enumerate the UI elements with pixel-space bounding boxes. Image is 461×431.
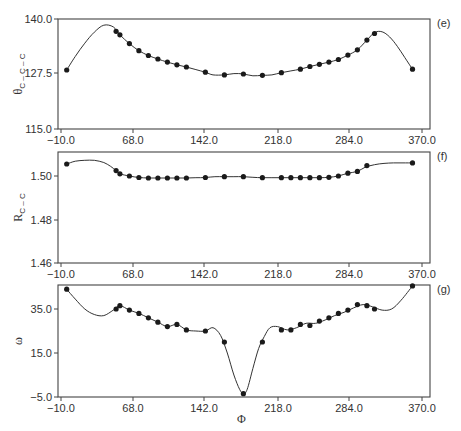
data-point [372, 306, 377, 311]
data-point [203, 328, 208, 333]
data-point [336, 173, 341, 178]
data-point [298, 67, 303, 72]
data-point [127, 41, 132, 46]
x-tick-label: 284.0 [335, 402, 363, 414]
data-point [410, 283, 415, 288]
data-point [241, 174, 246, 179]
data-point [222, 339, 227, 344]
data-point [136, 48, 141, 53]
data-point [117, 303, 122, 308]
data-point [203, 175, 208, 180]
x-tick-label: 370.0 [408, 402, 436, 414]
data-point [336, 57, 341, 62]
data-point [174, 175, 179, 180]
data-point [117, 171, 122, 176]
data-point [298, 322, 303, 327]
data-point [364, 163, 369, 168]
panel-tag: (g) [437, 283, 450, 295]
y-tick-label: 1.48 [31, 214, 52, 226]
data-point [410, 160, 415, 165]
data-point [326, 315, 331, 320]
data-point [317, 319, 322, 324]
plot-frame [58, 285, 430, 397]
data-point [260, 175, 265, 180]
data-point [364, 38, 369, 43]
data-point [174, 62, 179, 67]
data-point [174, 322, 179, 327]
data-point [222, 174, 227, 179]
y-tick-label: 15.0 [31, 347, 52, 359]
x-tick-label: 142.0 [190, 268, 218, 280]
data-point [222, 72, 227, 77]
x-tick-label: 218.0 [264, 134, 292, 146]
x-tick-label: 370.0 [408, 268, 436, 280]
data-point [345, 171, 350, 176]
data-point [307, 175, 312, 180]
x-tick-label: 218.0 [264, 402, 292, 414]
data-point [117, 32, 122, 37]
data-point [165, 324, 170, 329]
x-tick-label: 68.0 [122, 402, 143, 414]
data-point [355, 47, 360, 52]
data-point [372, 31, 377, 36]
y-axis-label: RC – C [11, 193, 27, 222]
data-point [355, 169, 360, 174]
chart-figure: 140.0127.5115.0−10.068.0142.0218.0284.03… [0, 0, 461, 431]
x-tick-label: 284.0 [335, 268, 363, 280]
x-tick-label: 142.0 [190, 402, 218, 414]
data-point [184, 327, 189, 332]
x-tick-label: 68.0 [122, 268, 143, 280]
data-point [127, 173, 132, 178]
y-tick-label: 127.5 [24, 67, 52, 79]
x-tick-label: −10.0 [47, 402, 75, 414]
data-point [345, 53, 350, 58]
data-point [317, 62, 322, 67]
data-point [279, 70, 284, 75]
y-tick-label: 140.0 [24, 13, 52, 25]
x-tick-label: 284.0 [335, 134, 363, 146]
data-curve [67, 286, 413, 394]
data-point [146, 175, 151, 180]
data-point [326, 175, 331, 180]
data-point [288, 175, 293, 180]
data-point [127, 308, 132, 313]
y-tick-label: 1.50 [31, 170, 52, 182]
data-point [260, 339, 265, 344]
data-point [136, 175, 141, 180]
data-point [184, 64, 189, 69]
data-point [364, 303, 369, 308]
data-point [410, 67, 415, 72]
data-point [165, 60, 170, 65]
y-axis-label: θC – C – C [11, 53, 27, 94]
data-curve [67, 25, 413, 76]
data-point [64, 67, 69, 72]
panel-f: 1.501.481.46−10.068.0142.0218.0284.0370.… [11, 150, 447, 280]
data-point [165, 175, 170, 180]
x-axis-label: Φ [237, 412, 246, 426]
data-point [155, 175, 160, 180]
data-point [241, 391, 246, 396]
x-tick-label: −10.0 [47, 268, 75, 280]
data-point [326, 60, 331, 65]
data-point [307, 323, 312, 328]
panel-tag: (f) [437, 150, 447, 162]
data-point [317, 175, 322, 180]
panel-g: 35.015.0−5.0−10.068.0142.0218.0284.0370.… [11, 283, 450, 414]
data-point [288, 327, 293, 332]
data-point [64, 161, 69, 166]
data-point [336, 311, 341, 316]
x-tick-label: −10.0 [47, 134, 75, 146]
x-tick-label: 370.0 [408, 134, 436, 146]
data-point [260, 73, 265, 78]
x-tick-label: 218.0 [264, 268, 292, 280]
data-point [203, 70, 208, 75]
data-point [279, 175, 284, 180]
y-tick-label: 35.0 [31, 303, 52, 315]
panel-tag: (e) [437, 17, 450, 29]
data-point [155, 320, 160, 325]
data-point [155, 56, 160, 61]
x-tick-label: 142.0 [190, 134, 218, 146]
data-point [355, 302, 360, 307]
data-point [345, 308, 350, 313]
data-point [136, 311, 141, 316]
